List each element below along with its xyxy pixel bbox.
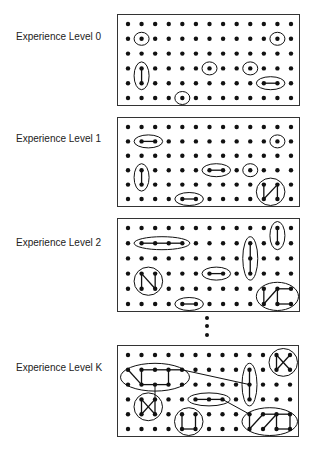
grid-node — [180, 382, 184, 386]
grid-node — [139, 96, 143, 100]
grid-node — [234, 168, 238, 172]
grid-node — [194, 81, 198, 85]
grid-node — [288, 382, 292, 386]
grid-node — [194, 51, 198, 55]
grid-node — [167, 182, 171, 186]
grid-node — [262, 22, 266, 26]
node-grid — [118, 15, 301, 107]
grid-node — [139, 412, 143, 416]
grid-node — [262, 302, 266, 306]
grid-node — [180, 81, 184, 85]
grid-node — [262, 154, 266, 158]
grid-node — [139, 51, 143, 55]
grid-node — [139, 37, 143, 41]
grid-node — [193, 412, 197, 416]
grid-node — [275, 81, 279, 85]
grid-node — [126, 412, 130, 416]
grid-node — [126, 241, 130, 245]
grid-node — [262, 81, 266, 85]
grid-node — [180, 427, 184, 431]
grid-node — [194, 302, 198, 306]
grid-node — [194, 182, 198, 186]
grid-node — [234, 37, 238, 41]
grid-node — [234, 256, 238, 260]
grid-node — [167, 226, 171, 230]
panel-label-level-0: Experience Level 0 — [16, 31, 101, 42]
grid-node — [207, 287, 211, 291]
grid-node — [234, 125, 238, 129]
grid-node — [248, 256, 252, 260]
node-edge — [128, 370, 142, 385]
grid-node — [153, 241, 157, 245]
grid-node — [220, 368, 224, 372]
grid-node — [221, 51, 225, 55]
grid-node — [288, 353, 292, 357]
grid-node — [139, 427, 143, 431]
grid-node — [126, 37, 130, 41]
grid-node — [126, 353, 130, 357]
grid-node — [153, 287, 157, 291]
grid-node — [247, 397, 251, 401]
grid-node — [221, 226, 225, 230]
grid-node — [234, 197, 238, 201]
grid-node — [234, 287, 238, 291]
grid-node — [274, 368, 278, 372]
grid-node — [153, 368, 157, 372]
grid-node — [207, 66, 211, 70]
grid-node — [207, 226, 211, 230]
grid-node — [234, 271, 238, 275]
grid-node — [167, 22, 171, 26]
grid-node — [275, 287, 279, 291]
grid-node — [234, 51, 238, 55]
grid-node — [126, 168, 130, 172]
grid-node — [153, 125, 157, 129]
grid-node — [207, 96, 211, 100]
grid-node — [220, 353, 224, 357]
grid-node — [220, 412, 224, 416]
grid-node — [153, 427, 157, 431]
grid-node — [139, 154, 143, 158]
grid-node — [274, 427, 278, 431]
panel-label-level-2: Experience Level 2 — [16, 237, 101, 248]
grid-node — [153, 22, 157, 26]
grid-node — [289, 37, 293, 41]
grid-node — [139, 287, 143, 291]
panel-level-1 — [117, 117, 300, 207]
grid-node — [221, 96, 225, 100]
grid-node — [126, 256, 130, 260]
grid-node — [221, 168, 225, 172]
node-grid — [118, 118, 301, 208]
panel-level-2 — [117, 218, 300, 312]
grid-node — [220, 427, 224, 431]
grid-node — [275, 66, 279, 70]
grid-node — [288, 412, 292, 416]
grid-node — [126, 182, 130, 186]
grid-node — [207, 81, 211, 85]
grid-node — [248, 66, 252, 70]
grid-node — [248, 182, 252, 186]
grid-node — [153, 226, 157, 230]
grid-node — [166, 427, 170, 431]
grid-node — [194, 125, 198, 129]
grid-node — [194, 287, 198, 291]
panel-label-level-k: Experience Level K — [16, 362, 102, 373]
node-edge — [142, 274, 156, 289]
grid-node — [194, 154, 198, 158]
grid-node — [194, 168, 198, 172]
cluster-ellipse — [175, 408, 204, 436]
grid-node — [166, 382, 170, 386]
grid-node — [207, 412, 211, 416]
grid-node — [166, 412, 170, 416]
grid-node — [275, 168, 279, 172]
grid-node — [289, 125, 293, 129]
grid-node — [289, 226, 293, 230]
grid-node — [167, 96, 171, 100]
grid-node — [234, 368, 238, 372]
grid-node — [180, 197, 184, 201]
grid-node — [139, 256, 143, 260]
panel-level-k — [117, 345, 299, 437]
grid-node — [275, 139, 279, 143]
grid-node — [248, 154, 252, 158]
grid-node — [139, 81, 143, 85]
group-link — [182, 370, 250, 385]
